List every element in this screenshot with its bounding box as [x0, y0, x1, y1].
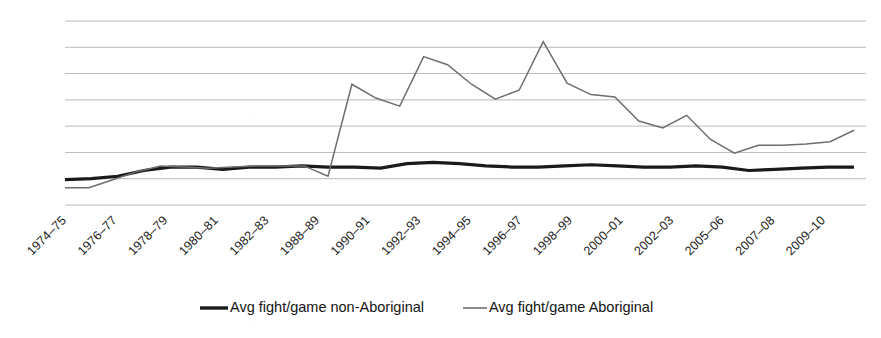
line-chart: 1974–751976–771978–791980–811982–831988–…: [0, 0, 881, 338]
chart-container: 1974–751976–771978–791980–811982–831988–…: [0, 0, 881, 338]
legend-label: Avg fight/game non-Aboriginal: [230, 299, 424, 315]
legend-label: Avg fight/game Aboriginal: [489, 299, 653, 315]
